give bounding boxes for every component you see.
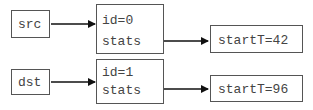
struct-field-id: id=1 (102, 66, 133, 79)
struct-field-stats: stats (102, 84, 141, 97)
struct-field-id: id=0 (102, 14, 133, 27)
target-box-0: startT=42 (210, 25, 303, 53)
pointer-label: dst (18, 76, 41, 89)
struct-field-stats: stats (102, 35, 141, 48)
struct-box-0: id=0 stats (96, 4, 164, 54)
pointer-box-src: src (11, 10, 50, 38)
pointer-label: src (18, 18, 41, 31)
struct-box-1: id=1 stats (96, 59, 164, 104)
target-label: startT=96 (218, 83, 288, 96)
target-label: startT=42 (218, 34, 288, 47)
target-box-1: startT=96 (210, 75, 303, 102)
pointer-box-dst: dst (11, 69, 50, 95)
